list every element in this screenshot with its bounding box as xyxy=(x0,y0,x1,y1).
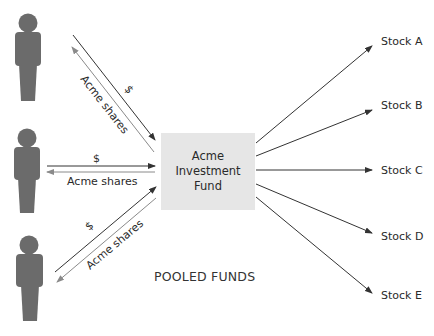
investor-2-shares-label: Acme shares xyxy=(67,175,138,188)
investor-1-person-icon xyxy=(15,14,41,102)
pooled-funds-caption: POOLED FUNDS xyxy=(154,269,255,284)
stock-b-arrow xyxy=(256,110,372,156)
stock-a-label: Stock A xyxy=(381,35,423,48)
fund-box-line3: Fund xyxy=(194,179,222,193)
pooled-funds-diagram: $ Acme shares $ Acme shares $ Acme share… xyxy=(0,0,434,336)
stock-d-label: Stock D xyxy=(381,230,423,243)
stock-e-arrow xyxy=(256,197,372,293)
investor-2-money-label: $ xyxy=(93,152,100,165)
investor-1-money-label: $ xyxy=(122,83,137,97)
stock-d-arrow xyxy=(256,184,372,233)
fund-box-line2: Investment xyxy=(175,164,241,178)
investor-3-money-label: $ xyxy=(83,219,97,233)
stock-c-label: Stock C xyxy=(381,164,423,177)
investor-1-shares-label: Acme shares xyxy=(78,73,132,137)
investor-3-person-icon xyxy=(16,236,43,322)
stock-e-label: Stock E xyxy=(381,289,422,302)
investor-1-shares-arrow xyxy=(72,47,154,152)
stock-a-arrow xyxy=(256,46,372,143)
investor-2-person-icon xyxy=(14,129,40,214)
fund-box-line1: Acme xyxy=(192,149,224,163)
stock-b-label: Stock B xyxy=(381,99,423,112)
investor-3-shares-arrow xyxy=(57,198,156,282)
